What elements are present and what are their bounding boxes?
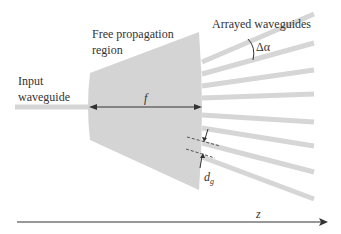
dg-label-sub: g <box>210 177 214 186</box>
input-waveguide-label-line2: waveguide <box>18 90 70 104</box>
arrayed-waveguide-7 <box>202 143 314 172</box>
dg-label: dg <box>204 170 214 189</box>
z-axis-label: z <box>256 207 261 221</box>
input-waveguide-label-line1: Input <box>18 74 43 88</box>
arrayed-waveguide-3 <box>202 70 314 86</box>
arrayed-waveguide-4 <box>202 94 314 98</box>
arrayed-waveguide-6 <box>202 128 314 146</box>
arrayed-waveguide-8 <box>202 157 314 199</box>
arrayed-waveguides-label: Arrayed waveguides <box>212 17 311 31</box>
arrayed-waveguide-5 <box>202 115 314 122</box>
fpr-label-line1: Free propagation <box>92 27 174 41</box>
awg-diagram: Input waveguide Free propagation region … <box>0 0 341 234</box>
fpr-label-line2: region <box>92 43 123 57</box>
delta-alpha-label: Δα <box>256 40 270 54</box>
focal-length-label: f <box>144 91 147 105</box>
